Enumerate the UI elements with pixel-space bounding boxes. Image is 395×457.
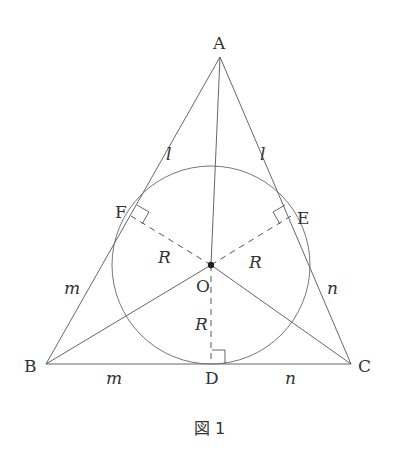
right-angle-D [212, 350, 225, 364]
label-OD-radius: R [194, 314, 208, 334]
right-angle-F [137, 205, 149, 224]
label-E: E [297, 208, 309, 228]
bisector-AO [211, 57, 220, 265]
label-BD-length: m [106, 368, 122, 388]
label-O: O [196, 276, 210, 296]
label-B: B [24, 356, 37, 376]
label-CE-length: n [327, 278, 338, 298]
label-AF-length: l [166, 144, 171, 164]
label-F: F [115, 202, 127, 222]
label-OF-radius: R [157, 247, 171, 267]
right-angle-E [273, 205, 285, 224]
figure-caption: 図 1 [194, 419, 225, 438]
label-C: C [358, 356, 371, 376]
label-AE-length: l [260, 144, 265, 164]
label-A: A [212, 33, 226, 53]
incenter-dot [208, 262, 214, 268]
side-AB [46, 57, 220, 364]
label-OE-radius: R [248, 252, 262, 272]
label-CD-length: n [285, 368, 296, 388]
label-D: D [205, 368, 219, 388]
incircle-triangle-diagram: A B C D E F O l l m m n n R R R 図 1 [0, 0, 395, 457]
label-BF-length: m [64, 278, 80, 298]
radius-OF [131, 216, 211, 265]
